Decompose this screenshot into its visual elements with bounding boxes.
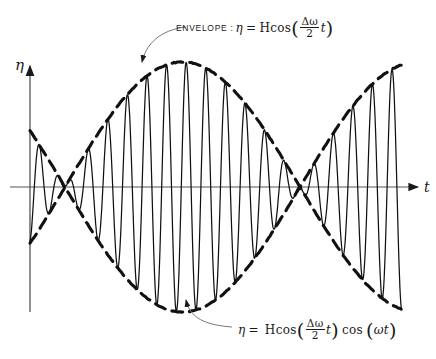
wave-cos2: cos (342, 324, 363, 336)
lower-envelope-curve (30, 62, 401, 309)
envelope-annotation: ENVELOPE : η = H cos ( Δω 2 t ) (176, 16, 334, 40)
wave-cos: cos (276, 324, 297, 336)
envelope-equals: = (246, 22, 256, 34)
eta-axis-label: η (15, 58, 24, 73)
wave-equals: = (249, 324, 259, 336)
beats-diagram: η t ENVELOPE : η = H cos ( Δω 2 t ) η = (0, 0, 436, 359)
wave-numerator: Δω (306, 318, 325, 329)
wave-equation: η = H cos ( Δω 2 t ) cos ( ωt ) (238, 318, 397, 342)
wave-lhs: η (238, 324, 246, 336)
envelope-amplitude: H (259, 22, 270, 34)
envelope-keyword: ENVELOPE : (176, 24, 234, 33)
envelope-equation: η = H cos ( Δω 2 t ) (236, 16, 334, 40)
envelope-numerator: Δω (300, 16, 319, 27)
envelope-cos: cos (270, 22, 291, 34)
envelope-fraction: Δω 2 (300, 16, 319, 40)
wave-annotation: η = H cos ( Δω 2 t ) cos ( ωt ) (238, 318, 397, 342)
wave-denominator: 2 (312, 330, 319, 342)
wave-argument-2: ωt (374, 324, 389, 336)
wave-fraction: Δω 2 (306, 318, 325, 342)
wave-amplitude: H (265, 324, 276, 336)
upper-envelope-curve (30, 65, 401, 312)
envelope-denominator: 2 (306, 28, 313, 40)
envelope-lhs: η (236, 22, 244, 34)
waveform-plot (0, 0, 436, 359)
t-axis-label: t (424, 180, 430, 194)
